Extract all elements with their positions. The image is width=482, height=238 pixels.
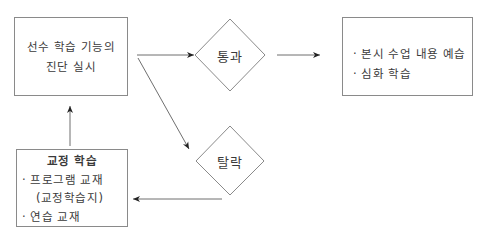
edge-diagnosis-to-fail	[138, 58, 189, 149]
pass-label: 통과	[195, 46, 265, 65]
remedial-item-worksheet: (교정학습지)	[22, 189, 127, 208]
remedial-title: 교정 학습	[22, 152, 127, 171]
remedial-item-practice: · 연습 교재	[22, 208, 127, 227]
fail-label: 탈락	[195, 152, 265, 171]
advanced-item-enrichment: · 심화 학습	[353, 64, 472, 84]
diagnosis-line-1: 선수 학습 기능의	[27, 37, 116, 57]
diagnosis-line-2: 진단 실시	[46, 57, 96, 77]
remedial-item-program: · 프로그램 교재	[22, 171, 127, 190]
diagnosis-box: 선수 학습 기능의 진단 실시	[14, 17, 128, 96]
remedial-learning-box: 교정 학습 · 프로그램 교재 (교정학습지) · 연습 교재	[16, 149, 128, 227]
advanced-item-preview: · 본시 수업 내용 예습	[353, 44, 472, 64]
advanced-learning-box: · 본시 수업 내용 예습 · 심화 학습	[342, 17, 473, 96]
flowchart: 선수 학습 기능의 진단 실시 통과 탈락 · 본시 수업 내용 예습 · 심화…	[0, 0, 482, 238]
